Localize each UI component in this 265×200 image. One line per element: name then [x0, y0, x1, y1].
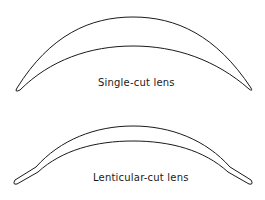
lenticular-cut-lens-label: Lenticular-cut lens: [93, 172, 189, 183]
single-cut-lens-label: Single-cut lens: [98, 77, 175, 88]
lens-diagrams: [0, 0, 265, 200]
